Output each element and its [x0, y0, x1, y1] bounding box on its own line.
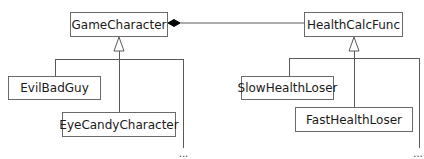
class-name: EvilBadGuy	[20, 81, 89, 95]
composition-diamond-icon	[168, 20, 180, 27]
class-slow-health-loser: SlowHealthLoser	[238, 77, 338, 100]
class-name: EyeCandyCharacter	[59, 118, 178, 132]
more-subclasses-ellipsis: ...	[413, 148, 423, 159]
class-eye-candy-character: EyeCandyCharacter	[59, 113, 178, 137]
class-health-calc-func: HealthCalcFunc	[305, 13, 403, 37]
class-evil-bad-guy: EvilBadGuy	[9, 77, 101, 100]
class-name: GameCharacter	[72, 18, 167, 32]
class-name: FastHealthLoser	[306, 113, 402, 127]
class-game-character: GameCharacter	[71, 13, 168, 37]
more-subclasses-ellipsis: ...	[179, 148, 189, 159]
class-fast-health-loser: FastHealthLoser	[296, 108, 413, 132]
uml-diagram: GameCharacter HealthCalcFunc ... EvilBad…	[0, 0, 424, 159]
generalization-triangle-icon	[114, 37, 124, 51]
class-name: HealthCalcFunc	[307, 18, 400, 32]
generalization-triangle-icon	[349, 37, 359, 51]
class-name: SlowHealthLoser	[238, 81, 338, 95]
